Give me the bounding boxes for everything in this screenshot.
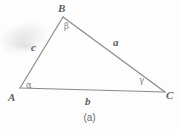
triangle-side-a-line — [63, 17, 165, 92]
vertex-label-a: A — [8, 92, 15, 103]
side-label-b: b — [85, 96, 91, 107]
angle-label-alpha: α — [26, 81, 32, 90]
vertex-label-c: C — [166, 90, 173, 101]
triangle-side-b-line — [20, 88, 165, 92]
vertex-label-b: B — [58, 3, 65, 14]
figure-caption: (a) — [0, 112, 179, 123]
triangle-figure: B A C c a b α β γ (a) — [0, 0, 179, 130]
angle-label-beta: β — [64, 22, 69, 31]
triangle-side-c-line — [20, 17, 63, 88]
angle-label-gamma: γ — [139, 76, 144, 85]
triangle-outline — [0, 0, 179, 130]
side-label-a: a — [113, 37, 119, 48]
side-label-c: c — [31, 42, 36, 53]
